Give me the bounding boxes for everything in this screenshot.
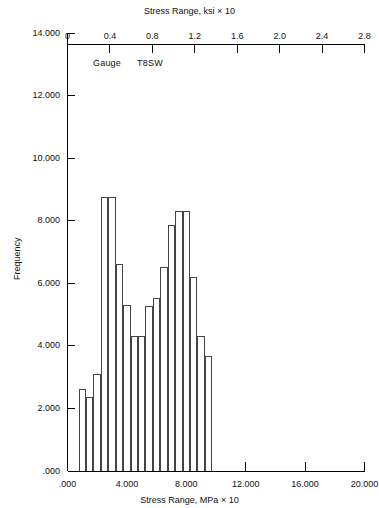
x-axis-tick-label: .000 [59, 479, 77, 489]
x-axis-tick-label: 16.000 [291, 479, 319, 489]
x-axis-tick-label: 12.000 [232, 479, 260, 489]
x-axis-tick-label: 8.000 [175, 479, 198, 489]
chart-figure: Stress Range, ksi × 10 00.40.81.21.62.02… [0, 0, 379, 508]
histogram-bar [168, 225, 175, 471]
histogram-bar [108, 197, 115, 471]
histogram-bar [197, 336, 204, 471]
x-axis-tick-label: 20.000 [351, 479, 379, 489]
histogram-bar [205, 356, 212, 470]
histogram-bar [175, 211, 182, 471]
x-axis-tick-label: 4.000 [116, 479, 139, 489]
histogram-bar [190, 277, 197, 471]
histogram-bar [93, 374, 100, 471]
x-axis-line [68, 471, 365, 472]
histogram-bar [153, 298, 160, 470]
histogram-bar [145, 306, 152, 470]
histogram-bar [86, 397, 93, 471]
histogram-bar [183, 211, 190, 471]
histogram-bar [160, 267, 167, 470]
histogram-bar [79, 389, 86, 470]
top-axis-title: Stress Range, ksi × 10 [0, 6, 379, 16]
x-axis-label: Stress Range, MPa × 10 [0, 495, 379, 505]
histogram-bar [131, 336, 138, 471]
histogram-bar [138, 336, 145, 471]
histogram-bar [116, 264, 123, 470]
histogram-bars [0, 33, 379, 471]
histogram-bar [101, 197, 108, 471]
histogram-bar [123, 305, 130, 471]
